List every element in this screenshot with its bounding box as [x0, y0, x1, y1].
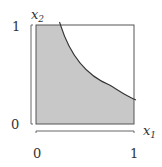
diagram-canvas — [0, 0, 162, 167]
y-tick-0: 0 — [11, 118, 19, 131]
y-tick-1: 1 — [12, 20, 20, 33]
shaded-region — [36, 25, 134, 124]
y-axis-label: x2 — [31, 8, 44, 24]
x-tick-1: 1 — [130, 147, 138, 160]
x-axis-label: x1 — [143, 124, 156, 140]
x-axis-bracket — [36, 131, 134, 133]
x-tick-0: 0 — [33, 147, 41, 160]
y-axis-bracket — [31, 25, 33, 124]
